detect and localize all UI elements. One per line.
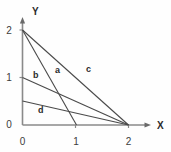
y-tick-label-0: 0 — [6, 119, 12, 130]
x-tick-label-2: 2 — [126, 136, 132, 147]
x-tick-label-0: 0 — [20, 136, 26, 147]
y-tick-label-1: 1 — [6, 72, 12, 83]
x-tick-label-1: 1 — [73, 136, 79, 147]
x-axis-group — [23, 123, 152, 128]
x-axis-arrow-icon — [145, 123, 152, 128]
line-label-a: a — [55, 65, 61, 75]
data-line-b — [23, 78, 129, 126]
y-tick-label-2: 2 — [6, 25, 12, 36]
chart-figure: ..... Y X 2 1 0 0 1 — [0, 0, 171, 152]
data-line-a — [23, 30, 77, 125]
coordinate-plot: Y X 2 1 0 0 1 2 a b c d — [0, 0, 171, 152]
y-axis-label: Y — [32, 6, 39, 17]
line-label-c: c — [86, 64, 91, 74]
y-axis-arrow-icon — [20, 17, 25, 24]
x-axis-label: X — [157, 120, 164, 131]
line-label-d: d — [38, 105, 44, 115]
line-label-b: b — [33, 70, 39, 80]
